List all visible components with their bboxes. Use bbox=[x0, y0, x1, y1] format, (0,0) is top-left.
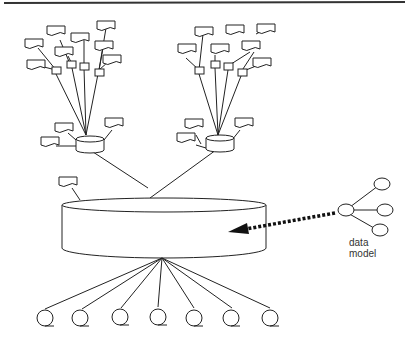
diagram-canvas: data model bbox=[0, 0, 420, 347]
right-intermediate-nodes bbox=[195, 61, 247, 76]
data-model-graph bbox=[338, 178, 393, 236]
clients bbox=[37, 258, 279, 326]
data-model-label-line2: model bbox=[349, 248, 376, 259]
client-icons bbox=[37, 309, 279, 326]
left-intermediate-nodes bbox=[52, 61, 104, 76]
left-leaf-documents bbox=[25, 21, 123, 147]
data-model-label: data model bbox=[349, 237, 376, 259]
architecture-diagram bbox=[0, 0, 420, 347]
right-cluster bbox=[150, 30, 264, 198]
right-local-db bbox=[206, 135, 234, 152]
left-local-db bbox=[76, 136, 104, 153]
data-model-label-line1: data bbox=[349, 237, 376, 248]
top-rule bbox=[4, 2, 405, 3]
